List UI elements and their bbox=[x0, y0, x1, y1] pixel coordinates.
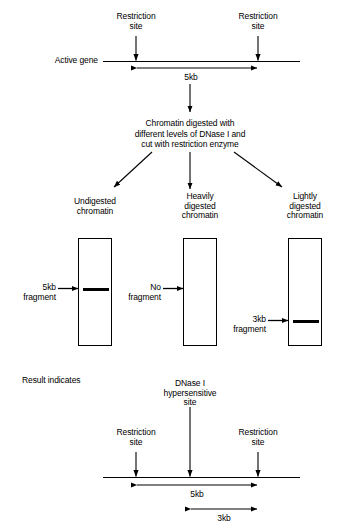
treatment-description: Chromatin digested with different levels… bbox=[100, 118, 280, 150]
gene-backbone-line bbox=[103, 61, 300, 62]
restriction-site-label-top-right: Restriction site bbox=[238, 12, 277, 31]
panel-title-lightly-digested: Lightly digested chromatin bbox=[287, 192, 323, 221]
span-5kb-label-bottom: 5kb bbox=[190, 490, 203, 500]
active-gene-label: Active gene bbox=[55, 56, 98, 66]
flow-arrow-to-lightly-digested bbox=[234, 152, 282, 187]
fragment-label-3kb: 3kb fragment bbox=[233, 315, 266, 334]
result-backbone-line bbox=[103, 477, 300, 478]
span-3kb-label-bottom: 3kb bbox=[217, 514, 230, 524]
restriction-site-label-bottom-left: Restriction site bbox=[116, 428, 155, 447]
fragment-label-5kb: 5kb fragment bbox=[23, 283, 56, 302]
gel-lane-lightly-digested bbox=[288, 238, 322, 346]
band-3kb bbox=[293, 320, 319, 323]
span-5kb-label-top: 5kb bbox=[184, 73, 197, 83]
fragment-label-none: No fragment bbox=[128, 283, 161, 302]
panel-title-undigested: Undigested chromatin bbox=[74, 197, 116, 216]
gel-lane-heavily-digested bbox=[183, 238, 217, 346]
dnase-hypersensitivity-diagram: Active gene Restriction site Restriction… bbox=[0, 0, 339, 531]
flow-arrow-to-undigested bbox=[114, 152, 152, 187]
restriction-site-label-bottom-right: Restriction site bbox=[238, 428, 277, 447]
gel-lane-undigested bbox=[78, 238, 112, 346]
hypersensitive-site-label: DNase I hypersensitive site bbox=[164, 379, 217, 408]
panel-title-heavily-digested: Heavily digested chromatin bbox=[182, 192, 218, 221]
band-5kb bbox=[83, 288, 109, 291]
restriction-site-label-top-left: Restriction site bbox=[116, 12, 155, 31]
result-heading: Result indicates bbox=[22, 376, 80, 386]
